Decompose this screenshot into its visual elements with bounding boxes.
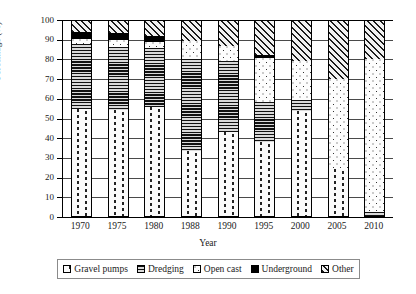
x-tick-label-2010: 2010 xyxy=(354,221,394,232)
x-tick-label-2005: 2005 xyxy=(317,221,357,232)
bar-segment-2000-other[interactable] xyxy=(291,20,312,61)
bar-segment-2010-open-cast[interactable] xyxy=(364,59,385,212)
bar-segment-2005-gravel-pumps[interactable] xyxy=(328,169,349,217)
stacked-bar-chart: Percentage (%) 0102030405060708090100 19… xyxy=(0,0,416,294)
bar-segment-1995-underground[interactable] xyxy=(254,55,275,58)
legend-swatch-icon xyxy=(251,265,259,273)
bar-segment-1980-open-cast[interactable] xyxy=(144,42,165,48)
bar-segment-2005-open-cast[interactable] xyxy=(328,79,349,169)
bar-segment-1988-open-cast[interactable] xyxy=(181,41,202,60)
legend-label: Other xyxy=(332,264,354,274)
x-tick-label-1975: 1975 xyxy=(97,221,137,232)
x-tick-label-1970: 1970 xyxy=(60,221,100,232)
bar-segment-2005-other[interactable] xyxy=(328,20,349,79)
legend-label: Underground xyxy=(262,264,312,274)
bar-segment-1970-other[interactable] xyxy=(71,20,92,32)
bar-segment-1990-open-cast[interactable] xyxy=(218,46,239,62)
x-tick-label-1988: 1988 xyxy=(170,221,210,232)
bar-segment-1970-open-cast[interactable] xyxy=(71,39,92,44)
bar-segment-1975-gravel-pumps[interactable] xyxy=(108,110,129,217)
bar-segment-1995-other[interactable] xyxy=(254,20,275,55)
bar-segment-1980-gravel-pumps[interactable] xyxy=(144,107,165,217)
legend-item-open-cast[interactable]: Open cast xyxy=(193,264,242,274)
bar-2005[interactable] xyxy=(328,20,349,217)
bar-segment-2000-gravel-pumps[interactable] xyxy=(291,111,312,217)
bar-segment-1990-other[interactable] xyxy=(218,20,239,46)
legend-item-dredging[interactable]: Dredging xyxy=(137,264,184,274)
y-tick-label-40: 40 xyxy=(28,134,54,143)
legend-item-other[interactable]: Other xyxy=(321,264,354,274)
legend-swatch-icon xyxy=(193,265,201,273)
bar-1980[interactable] xyxy=(144,20,165,217)
bar-segment-1970-dredging[interactable] xyxy=(71,44,92,109)
y-tick-label-10: 10 xyxy=(28,193,54,202)
bar-segment-2000-dredging[interactable] xyxy=(291,100,312,111)
bar-1988[interactable] xyxy=(181,20,202,217)
bar-segment-1970-gravel-pumps[interactable] xyxy=(71,109,92,217)
x-tick-label-1980: 1980 xyxy=(134,221,174,232)
bar-1975[interactable] xyxy=(108,20,129,217)
bar-2010[interactable] xyxy=(364,20,385,217)
bar-segment-1975-underground[interactable] xyxy=(108,33,129,40)
bar-segment-1995-dredging[interactable] xyxy=(254,102,275,142)
bar-segment-1988-other[interactable] xyxy=(181,20,202,41)
bar-segment-1988-gravel-pumps[interactable] xyxy=(181,151,202,217)
plot-area xyxy=(62,20,393,218)
bar-segment-1980-dredging[interactable] xyxy=(144,48,165,107)
bar-2000[interactable] xyxy=(291,20,312,217)
x-tick-label-2000: 2000 xyxy=(280,221,320,232)
y-tick-label-100: 100 xyxy=(28,16,54,25)
legend-swatch-icon xyxy=(321,265,329,273)
y-axis-title: Percentage (%) xyxy=(0,22,2,80)
x-tick-label-1995: 1995 xyxy=(244,221,284,232)
chart-legend: Gravel pumpsDredgingOpen castUnderground… xyxy=(57,259,360,279)
y-tick-label-60: 60 xyxy=(28,94,54,103)
bar-segment-1995-open-cast[interactable] xyxy=(254,58,275,101)
bar-1990[interactable] xyxy=(218,20,239,217)
bar-segment-2010-dredging[interactable] xyxy=(364,212,385,217)
bar-segment-1975-open-cast[interactable] xyxy=(108,40,129,47)
x-tick-label-1990: 1990 xyxy=(207,221,247,232)
legend-swatch-icon xyxy=(63,265,71,273)
legend-label: Open cast xyxy=(204,264,242,274)
y-tick-label-80: 80 xyxy=(28,55,54,64)
legend-label: Dredging xyxy=(148,264,184,274)
bar-1970[interactable] xyxy=(71,20,92,217)
y-tick-label-20: 20 xyxy=(28,173,54,182)
legend-label: Gravel pumps xyxy=(74,264,128,274)
bar-segment-1990-dredging[interactable] xyxy=(218,61,239,132)
bar-segment-1980-other[interactable] xyxy=(144,20,165,36)
y-tick-label-50: 50 xyxy=(28,114,54,123)
y-tick-label-0: 0 xyxy=(28,213,54,222)
legend-swatch-icon xyxy=(137,265,145,273)
bar-segment-1970-underground[interactable] xyxy=(71,32,92,39)
y-tick-label-90: 90 xyxy=(28,35,54,44)
bar-segment-1975-other[interactable] xyxy=(108,20,129,33)
y-tick-label-70: 70 xyxy=(28,75,54,84)
bar-segment-1980-underground[interactable] xyxy=(144,36,165,42)
legend-item-gravel-pumps[interactable]: Gravel pumps xyxy=(63,264,128,274)
bar-segment-1995-gravel-pumps[interactable] xyxy=(254,142,275,217)
bar-segment-1990-gravel-pumps[interactable] xyxy=(218,132,239,217)
y-tick-label-30: 30 xyxy=(28,153,54,162)
legend-item-underground[interactable]: Underground xyxy=(251,264,312,274)
x-axis-title: Year xyxy=(0,238,416,248)
bar-segment-1988-dredging[interactable] xyxy=(181,59,202,151)
bar-segment-2000-open-cast[interactable] xyxy=(291,61,312,99)
bar-segment-1975-dredging[interactable] xyxy=(108,47,129,110)
bar-1995[interactable] xyxy=(254,20,275,217)
bar-segment-2010-other[interactable] xyxy=(364,20,385,59)
